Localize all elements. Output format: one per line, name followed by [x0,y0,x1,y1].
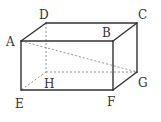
vertex-label-B: B [102,26,111,40]
edge-AD [21,23,46,41]
diagonal-AG [21,41,137,72]
vertex-label-F: F [107,95,115,109]
vertex-label-E: E [15,97,24,111]
edge-CB [113,23,137,41]
vertex-label-A: A [5,35,15,49]
edge-HE [21,72,46,90]
vertex-label-G: G [138,76,148,90]
edge-GF [113,72,137,90]
vertex-label-D: D [39,8,49,22]
rectangular-prism-diagram: A B C D E F G H [0,0,161,122]
vertex-label-C: C [138,8,147,22]
vertex-label-H: H [44,77,54,91]
